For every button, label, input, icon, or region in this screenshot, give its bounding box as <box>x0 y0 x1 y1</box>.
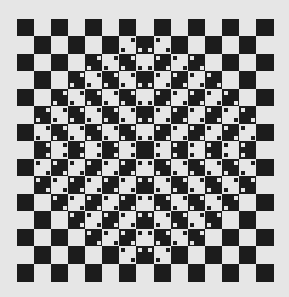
corner-dot <box>131 188 135 192</box>
board-cell <box>119 194 137 212</box>
board-cell <box>136 36 154 54</box>
corner-dot <box>173 73 177 77</box>
corner-dot <box>63 91 67 95</box>
corner-dot <box>138 66 142 70</box>
corner-dot <box>131 56 135 60</box>
corner-dot <box>87 136 91 140</box>
board-cell <box>188 89 206 107</box>
board-cell <box>205 176 223 194</box>
corner-dot <box>148 178 152 182</box>
corner-dot <box>63 171 67 175</box>
corner-dot <box>104 196 108 200</box>
corner-dot <box>97 56 101 60</box>
corner-dot <box>183 101 187 105</box>
corner-dot <box>80 108 84 112</box>
board-cell <box>34 176 52 194</box>
board-cell <box>171 19 189 37</box>
corner-dot <box>241 126 245 130</box>
corner-dot <box>200 66 204 70</box>
corner-dot <box>190 56 194 60</box>
board-cell <box>17 159 35 177</box>
corner-dot <box>183 231 187 235</box>
corner-dot <box>234 196 238 200</box>
board-cell <box>119 36 137 54</box>
board-cell <box>136 89 154 107</box>
corner-dot <box>80 91 84 95</box>
corner-dot <box>121 161 125 165</box>
corner-dot <box>166 178 170 182</box>
corner-dot <box>131 126 135 130</box>
board-cell <box>188 194 206 212</box>
corner-dot <box>200 83 204 87</box>
corner-dot <box>166 136 170 140</box>
corner-dot <box>156 73 160 77</box>
board-cell <box>222 71 240 89</box>
corner-dot <box>173 188 177 192</box>
corner-dot <box>70 136 74 140</box>
board-cell <box>188 159 206 177</box>
corner-dot <box>114 56 118 60</box>
board-cell <box>102 264 120 282</box>
corner-dot <box>63 108 67 112</box>
board-cell <box>17 141 35 159</box>
corner-dot <box>138 213 142 217</box>
board-cell <box>222 229 240 247</box>
board-cell <box>119 124 137 142</box>
corner-dot <box>70 196 74 200</box>
corner-dot <box>200 196 204 200</box>
board-cell <box>154 229 172 247</box>
corner-dot <box>80 153 84 157</box>
corner-dot <box>87 66 91 70</box>
board-cell <box>171 36 189 54</box>
corner-dot <box>190 153 194 157</box>
corner-dot <box>200 118 204 122</box>
corner-dot <box>138 196 142 200</box>
corner-dot <box>46 188 50 192</box>
board-cell <box>154 159 172 177</box>
board-cell <box>154 124 172 142</box>
corner-dot <box>166 118 170 122</box>
board-cell <box>51 176 69 194</box>
corner-dot <box>114 153 118 157</box>
corner-dot <box>131 73 135 77</box>
corner-dot <box>148 136 152 140</box>
corner-dot <box>224 91 228 95</box>
corner-dot <box>87 196 91 200</box>
corner-dot <box>121 248 125 252</box>
corner-dot <box>190 126 194 130</box>
board-cell <box>17 246 35 264</box>
board-cell <box>188 71 206 89</box>
corner-dot <box>80 206 84 210</box>
corner-dot <box>166 101 170 105</box>
board-cell <box>136 176 154 194</box>
board-cell <box>68 264 86 282</box>
board-cell <box>239 36 257 54</box>
board-cell <box>171 264 189 282</box>
corner-dot <box>104 178 108 182</box>
board-cell <box>17 36 35 54</box>
corner-dot <box>217 178 221 182</box>
corner-dot <box>207 126 211 130</box>
corner-dot <box>131 171 135 175</box>
corner-dot <box>121 83 125 87</box>
board-cell <box>85 229 103 247</box>
corner-dot <box>148 161 152 165</box>
corner-dot <box>63 153 67 157</box>
board-cell <box>51 159 69 177</box>
corner-dot <box>224 143 228 147</box>
corner-dot <box>70 118 74 122</box>
board-cell <box>154 176 172 194</box>
corner-dot <box>131 153 135 157</box>
board-cell <box>188 54 206 72</box>
corner-dot <box>156 171 160 175</box>
board-cell <box>17 106 35 124</box>
corner-dot <box>80 126 84 130</box>
corner-dot <box>251 118 255 122</box>
board-cell <box>68 159 86 177</box>
board-cell <box>205 211 223 229</box>
board-cell <box>171 141 189 159</box>
board-cell <box>239 194 257 212</box>
corner-dot <box>131 143 135 147</box>
corner-dot <box>53 196 57 200</box>
board-cell <box>17 89 35 107</box>
